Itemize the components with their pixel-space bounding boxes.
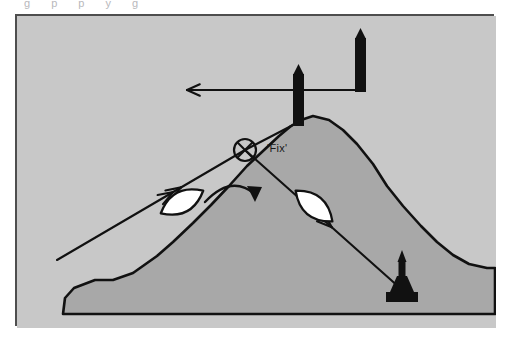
fix-label: 'Fix' [267, 142, 287, 154]
beacon-left [293, 64, 304, 126]
figure-page: g p p y g [0, 0, 509, 347]
navigation-fix-illustration [17, 16, 496, 328]
beacon-right [355, 28, 366, 92]
figure-frame: 'Fix' [15, 14, 494, 326]
clipped-caption-text: g p p y g [0, 0, 509, 12]
